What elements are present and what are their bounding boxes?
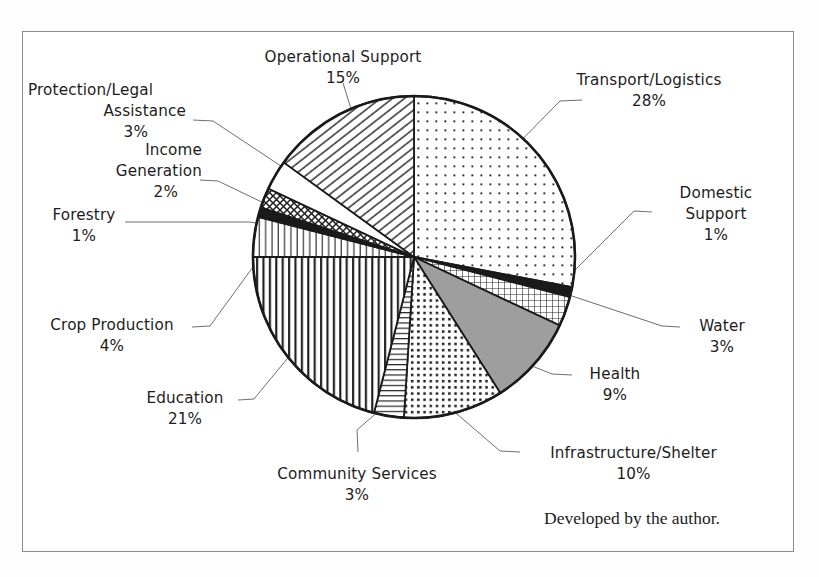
label-protection-legal-line2: Assistance — [28, 101, 193, 122]
label-health: Health 9% — [574, 364, 656, 406]
label-education: Education 21% — [132, 388, 238, 430]
label-domestic-support: Domestic Support 1% — [660, 183, 772, 246]
label-community-services-value: 3% — [251, 485, 463, 506]
leader-crop-production — [192, 260, 258, 327]
label-operational-support-name: Operational Support — [253, 47, 433, 68]
label-community-services-name: Community Services — [251, 464, 463, 485]
label-crop-production: Crop Production 4% — [32, 315, 192, 357]
label-health-name: Health — [574, 364, 656, 385]
label-infrastructure-shelter: Infrastructure/Shelter 10% — [521, 443, 746, 485]
label-crop-production-value: 4% — [32, 336, 192, 357]
label-domestic-support-value: 1% — [660, 225, 772, 246]
label-education-name: Education — [132, 388, 238, 409]
leader-income-generation — [200, 180, 268, 205]
label-water-name: Water — [682, 316, 762, 337]
label-health-value: 9% — [574, 385, 656, 406]
label-crop-production-name: Crop Production — [32, 315, 192, 336]
label-transport-logistics-value: 28% — [556, 91, 742, 112]
label-protection-legal-line1: Protection/Legal — [28, 80, 193, 101]
label-operational-support-value: 15% — [253, 68, 433, 89]
figure-credit: Developed by the author. — [544, 508, 720, 529]
label-income-generation-value: 2% — [108, 182, 202, 203]
label-forestry-value: 1% — [42, 226, 126, 247]
label-infrastructure-shelter-value: 10% — [521, 464, 746, 485]
label-income-generation: Income Generation 2% — [108, 140, 202, 203]
label-infrastructure-shelter-name: Infrastructure/Shelter — [521, 443, 746, 464]
label-income-generation-line2: Generation — [108, 161, 202, 182]
label-protection-legal-assistance: Protection/Legal Assistance 3% — [28, 80, 193, 143]
pie-slices — [253, 96, 575, 418]
figure-canvas: Operational Support 15% Transport/Logist… — [0, 0, 819, 577]
label-domestic-support-line1: Domestic — [660, 183, 772, 204]
label-domestic-support-line2: Support — [660, 204, 772, 225]
leader-community-services — [357, 409, 381, 452]
leader-domestic-support — [568, 211, 652, 277]
label-operational-support: Operational Support 15% — [253, 47, 433, 89]
label-transport-logistics-name: Transport/Logistics — [556, 70, 742, 91]
label-water: Water 3% — [682, 316, 762, 358]
leader-forestry — [125, 222, 262, 224]
leader-water — [560, 292, 680, 327]
label-income-generation-line1: Income — [108, 140, 202, 161]
label-forestry-name: Forestry — [42, 205, 126, 226]
label-community-services: Community Services 3% — [251, 464, 463, 506]
leader-infrastructure-shelter — [450, 408, 520, 452]
label-transport-logistics: Transport/Logistics 28% — [556, 70, 742, 112]
label-forestry: Forestry 1% — [42, 205, 126, 247]
leader-protection-legal — [193, 120, 290, 172]
label-water-value: 3% — [682, 337, 762, 358]
pie-slice — [414, 96, 575, 287]
label-education-value: 21% — [132, 409, 238, 430]
